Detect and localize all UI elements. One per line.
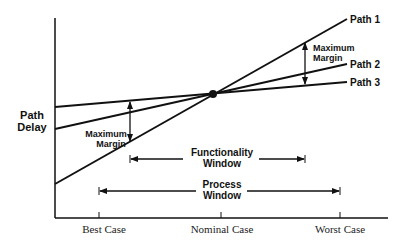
x-label-worst: Worst Case xyxy=(315,223,365,235)
right-margin-label-line1: Maximum xyxy=(313,43,355,53)
proc-window-label-line1: Process xyxy=(203,179,242,190)
path2-line xyxy=(55,64,347,129)
x-label-best: Best Case xyxy=(82,223,126,235)
path-delay-diagram: Path Delay Path 1 Path 2 Path 3 Maximum … xyxy=(0,0,410,248)
right-margin-label-line2: Margin xyxy=(313,53,343,63)
func-window-label-line1: Functionality xyxy=(191,147,254,158)
nominal-intersection-dot xyxy=(209,90,217,98)
y-axis-label-line1: Path xyxy=(20,109,44,121)
path3-label: Path 3 xyxy=(350,77,380,88)
path2-label: Path 2 xyxy=(350,59,380,70)
path1-label: Path 1 xyxy=(350,14,380,25)
left-margin-label-line1: Maximum xyxy=(85,129,127,139)
y-axis-label-line2: Delay xyxy=(17,121,47,133)
x-label-nominal: Nominal Case xyxy=(191,223,254,235)
proc-window-label-line2: Window xyxy=(203,190,241,201)
func-window-label-line2: Window xyxy=(203,158,241,169)
path3-line xyxy=(55,82,347,107)
left-margin-label-line2: Margin xyxy=(96,139,126,149)
